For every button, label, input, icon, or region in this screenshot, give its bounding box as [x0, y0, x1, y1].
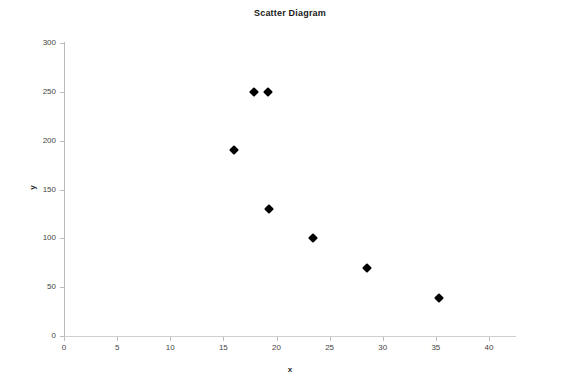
x-axis-tick [64, 337, 65, 341]
data-point-marker [229, 145, 239, 155]
plot-area [64, 43, 489, 336]
y-axis-tick-label: 250 [16, 88, 56, 96]
y-axis-tick-label: 0 [16, 332, 56, 340]
y-axis-tick-label: 100 [16, 234, 56, 242]
x-axis-line [64, 336, 516, 337]
x-axis-tick-label: 15 [203, 344, 243, 352]
x-axis-tick-label: 30 [363, 344, 403, 352]
data-point-marker [249, 87, 259, 97]
y-axis-tick-label: 200 [16, 137, 56, 145]
data-point-marker [264, 204, 274, 214]
y-axis-title: y [28, 176, 37, 200]
x-axis-tick-label: 20 [257, 344, 297, 352]
data-point-marker [263, 87, 273, 97]
x-axis-tick [436, 337, 437, 341]
y-axis-tick-label: 50 [16, 283, 56, 291]
x-axis-tick-label: 0 [44, 344, 84, 352]
data-point-marker [362, 263, 372, 273]
x-axis-title: x [0, 365, 580, 374]
x-axis-tick-label: 10 [150, 344, 190, 352]
page-title: Scatter Diagram [0, 8, 580, 18]
data-point-marker [308, 233, 318, 243]
y-axis-tick-label: 300 [16, 39, 56, 47]
x-axis-tick-label: 5 [97, 344, 137, 352]
x-axis-tick [383, 337, 384, 341]
x-axis-tick-label: 40 [469, 344, 509, 352]
x-axis-tick [223, 337, 224, 341]
x-axis-tick [330, 337, 331, 341]
x-axis-tick-label: 25 [310, 344, 350, 352]
x-axis-tick [170, 337, 171, 341]
data-point-marker [434, 293, 444, 303]
x-axis-tick-label: 35 [416, 344, 456, 352]
x-axis-tick [277, 337, 278, 341]
x-axis-tick [117, 337, 118, 341]
scatter-chart-page: Scatter Diagram 050100150200250300 05101… [0, 0, 580, 387]
x-axis-tick [489, 337, 490, 341]
